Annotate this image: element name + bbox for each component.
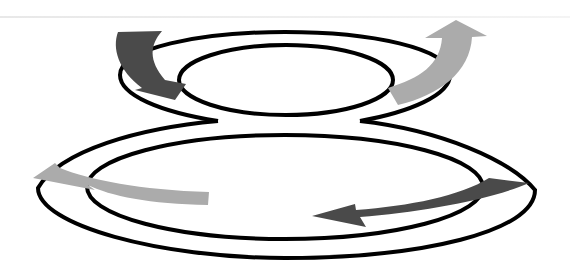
figure-eight-diagram (0, 0, 570, 278)
lower-right-arrow-icon (312, 178, 529, 227)
upper-loop (120, 32, 450, 121)
lower-left-arrow-icon (33, 163, 209, 205)
